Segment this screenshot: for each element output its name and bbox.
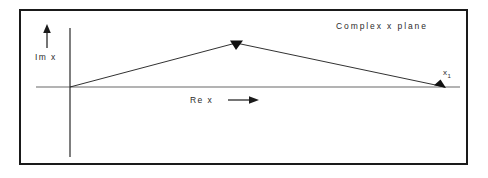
endpoint-label-x1: x1 xyxy=(443,68,451,79)
figure-container: Complex x plane Im x Re x x1 xyxy=(0,0,488,178)
contour-path xyxy=(70,41,446,89)
imaginary-axis-label: Im x xyxy=(35,52,57,62)
re-direction-arrow-icon xyxy=(228,96,259,104)
real-axis-label: Re x xyxy=(190,95,213,105)
contour-ascending-segment xyxy=(70,43,236,87)
contour-apex-arrowhead-icon xyxy=(230,41,243,51)
im-direction-arrow-icon xyxy=(43,24,51,48)
complex-plane-title: Complex x plane xyxy=(336,21,428,31)
endpoint-label-subscript: 1 xyxy=(447,73,450,79)
contour-descending-segment xyxy=(236,43,445,87)
